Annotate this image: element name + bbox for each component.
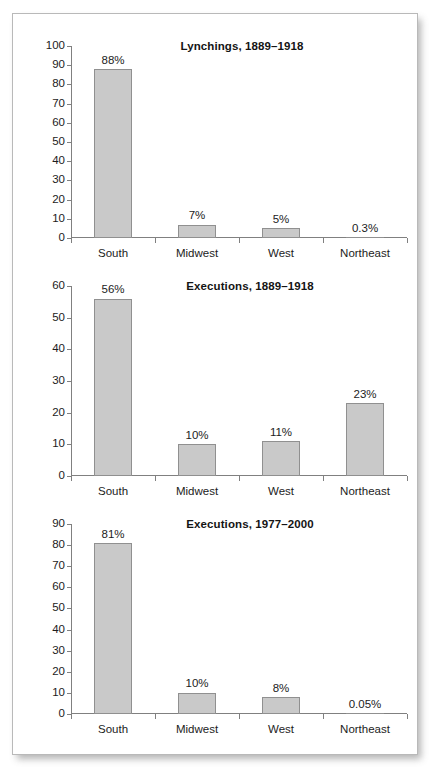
- y-axis-tick-label: 50: [52, 312, 65, 324]
- y-axis-tick-label: 40: [52, 344, 65, 356]
- x-axis-tick: [407, 714, 408, 719]
- y-axis-tick-label: 10: [52, 687, 65, 699]
- x-axis-category-label: West: [268, 248, 294, 260]
- x-axis-category-label: Northeast: [340, 248, 390, 260]
- y-axis-tick-label: 70: [52, 560, 65, 572]
- y-axis-tick-label: 20: [52, 407, 65, 419]
- bar-value-label: 7%: [189, 210, 206, 222]
- y-axis-tick-label: 60: [52, 117, 65, 129]
- bar-group: 56%10%11%23%: [71, 286, 407, 476]
- bar-slot: 10%: [155, 524, 239, 714]
- bar-value-label: 56%: [101, 284, 124, 296]
- bar[interactable]: [262, 228, 300, 238]
- bar-slot: 23%: [323, 286, 407, 476]
- bar-value-label: 23%: [353, 389, 376, 401]
- plot-area: 0102030405060708090100 88%7%5%0.3%: [71, 46, 407, 238]
- y-axis-tick-label: 50: [52, 136, 65, 148]
- chart-executions-1889-1918: Executions, 1889–1918 0102030405060 56%1…: [13, 268, 419, 506]
- chart-executions-1977-2000: Executions, 1977–2000 010203040506070809…: [13, 506, 419, 748]
- bar-value-label: 81%: [101, 529, 124, 541]
- bar[interactable]: [262, 697, 300, 714]
- bar[interactable]: [346, 237, 384, 238]
- bar-value-label: 0.05%: [349, 699, 382, 711]
- x-axis-category-label: South: [98, 724, 128, 736]
- y-axis-tick-label: 80: [52, 79, 65, 91]
- bar[interactable]: [346, 713, 384, 714]
- y-axis-tick-label: 0: [59, 232, 65, 244]
- plot-area: 0102030405060708090 81%10%8%0.05%: [71, 524, 407, 714]
- x-axis-category-label: Northeast: [340, 486, 390, 498]
- x-axis-category-label: Midwest: [176, 724, 218, 736]
- x-axis-category-label: Northeast: [340, 724, 390, 736]
- x-axis-category-label: Midwest: [176, 486, 218, 498]
- x-axis-category-label: Midwest: [176, 248, 218, 260]
- bar-slot: 7%: [155, 46, 239, 238]
- y-axis-tick-label: 20: [52, 666, 65, 678]
- x-axis-category-label: West: [268, 724, 294, 736]
- x-axis-category-label: West: [268, 486, 294, 498]
- x-axis-category-label: South: [98, 486, 128, 498]
- bar-value-label: 10%: [185, 678, 208, 690]
- bar-slot: 0.3%: [323, 46, 407, 238]
- y-axis-tick-label: 80: [52, 539, 65, 551]
- y-axis-tick-label: 10: [52, 439, 65, 451]
- y-axis-tick-label: 40: [52, 624, 65, 636]
- bar[interactable]: [94, 69, 132, 238]
- bar-slot: 56%: [71, 286, 155, 476]
- figure-card: Lynchings, 1889–1918 0102030405060708090…: [12, 13, 418, 755]
- bar[interactable]: [94, 299, 132, 476]
- y-axis-tick-label: 0: [59, 708, 65, 720]
- x-axis-category-label: South: [98, 248, 128, 260]
- bar[interactable]: [94, 543, 132, 714]
- y-axis-tick-label: 20: [52, 194, 65, 206]
- category-labels: SouthMidwestWestNortheast: [71, 478, 407, 494]
- bar-slot: 88%: [71, 46, 155, 238]
- bar[interactable]: [178, 444, 216, 476]
- y-axis-tick-label: 90: [52, 518, 65, 530]
- bar-slot: 5%: [239, 46, 323, 238]
- bar-slot: 81%: [71, 524, 155, 714]
- bar-slot: 0.05%: [323, 524, 407, 714]
- y-axis-tick-label: 40: [52, 155, 65, 167]
- bar[interactable]: [178, 693, 216, 714]
- bar-value-label: 88%: [101, 55, 124, 67]
- bar-slot: 8%: [239, 524, 323, 714]
- bar[interactable]: [178, 225, 216, 238]
- bar-slot: 11%: [239, 286, 323, 476]
- y-axis-tick-label: 30: [52, 645, 65, 657]
- y-axis-tick-label: 10: [52, 213, 65, 225]
- bar[interactable]: [346, 403, 384, 476]
- y-axis-tick-label: 60: [52, 280, 65, 292]
- y-axis-tick-label: 100: [46, 40, 65, 52]
- bar-group: 81%10%8%0.05%: [71, 524, 407, 714]
- bar-group: 88%7%5%0.3%: [71, 46, 407, 238]
- bar-value-label: 10%: [185, 430, 208, 442]
- bar-value-label: 0.3%: [352, 223, 378, 235]
- y-axis-tick-label: 50: [52, 603, 65, 615]
- y-axis-tick-label: 90: [52, 59, 65, 71]
- bar-slot: 10%: [155, 286, 239, 476]
- bar[interactable]: [262, 441, 300, 476]
- y-axis-tick-label: 30: [52, 175, 65, 187]
- figure-page: Lynchings, 1889–1918 0102030405060708090…: [0, 0, 445, 784]
- category-labels: SouthMidwestWestNortheast: [71, 716, 407, 732]
- x-axis-tick: [407, 238, 408, 243]
- bar-value-label: 11%: [270, 427, 292, 439]
- x-axis-tick: [407, 476, 408, 481]
- y-axis-tick-label: 30: [52, 375, 65, 387]
- bar-value-label: 5%: [273, 214, 290, 226]
- category-labels: SouthMidwestWestNortheast: [71, 240, 407, 256]
- bar-value-label: 8%: [273, 683, 290, 695]
- chart-lynchings-1889-1918: Lynchings, 1889–1918 0102030405060708090…: [13, 28, 419, 268]
- plot-area: 0102030405060 56%10%11%23%: [71, 286, 407, 476]
- y-axis-tick-label: 60: [52, 582, 65, 594]
- y-axis-tick-label: 70: [52, 98, 65, 110]
- y-axis-tick-label: 0: [59, 470, 65, 482]
